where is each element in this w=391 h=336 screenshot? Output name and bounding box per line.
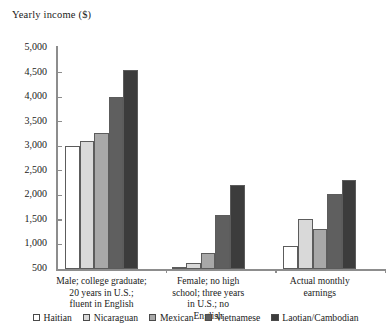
legend-swatch-icon	[83, 314, 91, 322]
x-axis-group-label: Male; college graduate; 20 years in U.S.…	[41, 275, 163, 310]
legend-item[interactable]: Mexican	[149, 312, 194, 323]
legend-item[interactable]: Haitian	[33, 312, 72, 323]
x-axis-line	[56, 269, 385, 271]
bar	[230, 185, 245, 269]
y-tick-label: 1,000	[25, 237, 48, 248]
legend-swatch-icon	[149, 314, 157, 322]
bar	[342, 180, 357, 269]
y-tick-label: 1,500	[25, 213, 48, 224]
bar	[94, 133, 109, 269]
bar	[313, 229, 328, 269]
legend-swatch-icon	[33, 314, 41, 322]
x-axis-tick	[275, 269, 276, 273]
y-tick-label: 3,500	[25, 115, 48, 126]
y-tick-label: 500	[32, 262, 47, 273]
bar	[65, 146, 80, 269]
legend-item[interactable]: Laotian/Cambodian	[271, 312, 358, 323]
y-tick-label: 4,000	[25, 90, 48, 101]
bar	[109, 97, 124, 269]
bar	[327, 194, 342, 269]
x-axis-tick	[166, 269, 167, 273]
legend-swatch-icon	[205, 314, 213, 322]
legend-label: Mexican	[160, 312, 194, 323]
bar	[123, 70, 138, 269]
chart-axis-title: Yearly income ($)	[12, 9, 91, 20]
y-tick-label: 2,000	[25, 188, 48, 199]
y-tick-label: 2,500	[25, 164, 48, 175]
y-tick-label: 3,000	[25, 139, 48, 150]
y-tick-label: 4,500	[25, 66, 48, 77]
legend-swatch-icon	[271, 314, 279, 322]
bar	[201, 253, 216, 269]
chart-legend: HaitianNicaraguanMexicanVietnameseLaotia…	[0, 312, 391, 323]
legend-item[interactable]: Vietnamese	[205, 312, 261, 323]
x-axis-group-label: Actual monthly earnings	[259, 275, 381, 298]
bar	[215, 215, 230, 269]
bar	[298, 219, 313, 269]
bar	[283, 246, 298, 269]
legend-label: Haitian	[44, 312, 72, 323]
legend-label: Nicaraguan	[94, 312, 138, 323]
y-tick-label: 5,000	[25, 41, 48, 52]
legend-label: Laotian/Cambodian	[282, 312, 358, 323]
legend-label: Vietnamese	[216, 312, 261, 323]
bar	[172, 267, 187, 269]
legend-item[interactable]: Nicaraguan	[83, 312, 138, 323]
x-axis-tick	[385, 269, 386, 273]
bar	[186, 263, 201, 269]
bar	[80, 141, 95, 269]
plot-area	[56, 48, 385, 269]
bar-chart: Yearly income ($) 5,0004,5004,0003,5003,…	[0, 0, 391, 336]
